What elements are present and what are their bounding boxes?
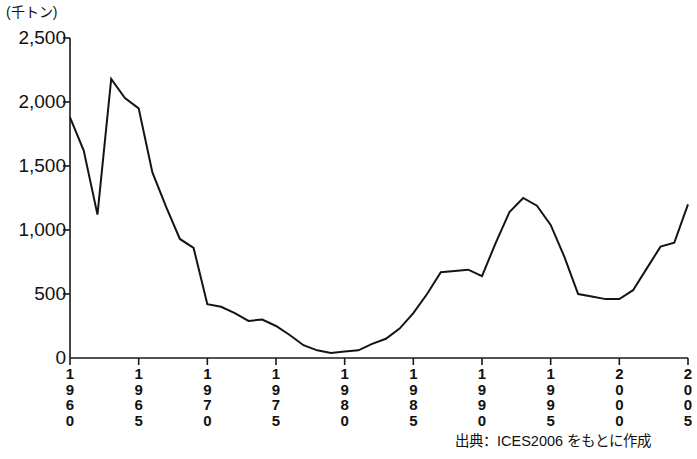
source-note: 出典：ICES2006 をもとに作成 (455, 432, 651, 450)
chart-plot-area (0, 0, 697, 459)
x-axis-ticks (70, 358, 688, 365)
data-series-line (70, 79, 688, 353)
chart-figure: (千トン) 05001,0001,5002,0002,500 196019651… (0, 0, 697, 459)
y-axis-ticks (63, 38, 70, 294)
